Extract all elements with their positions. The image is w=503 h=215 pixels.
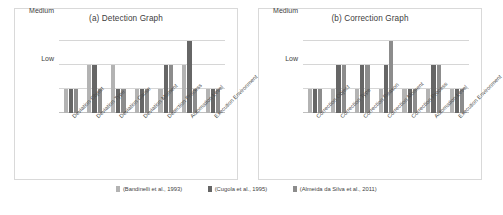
y-tick-label: Low — [41, 54, 54, 61]
x-label-cell: Automation Level — [178, 113, 202, 177]
chart-panel-detection: (a) Detection Graph LowMediumHigh Deviat… — [14, 8, 238, 180]
bar — [64, 89, 68, 113]
legend-swatch-icon — [293, 186, 297, 192]
chart-panel-correction: (b) Correction Graph LowMediumHigh Corre… — [258, 8, 482, 180]
legend-item[interactable]: (Almeida da Silva et al., 2011) — [293, 186, 376, 192]
x-label-cell: Execution Environment — [445, 113, 469, 177]
x-label-cell: Correction Process — [398, 113, 422, 177]
legend-label: (Cugola et al., 1995) — [215, 186, 268, 192]
bar — [313, 89, 317, 113]
x-axis-labels-detection: Deviation ObjectDeviation TypeDeviation … — [59, 113, 225, 177]
x-label-cell: Correction Reason — [350, 113, 374, 177]
bar — [389, 41, 393, 113]
legend-item[interactable]: (Cugola et al., 1995) — [208, 186, 267, 192]
x-label-cell: Automation Level — [422, 113, 446, 177]
y-tick-label: Low — [285, 54, 298, 61]
x-label-cell: Deviation Moment — [130, 113, 154, 177]
x-label-cell: Correction Type — [327, 113, 351, 177]
bar — [308, 89, 312, 113]
x-label-cell: Detection Process — [154, 113, 178, 177]
x-label-cell: Execution Environment — [201, 113, 225, 177]
x-label-cell: Correction Moment — [374, 113, 398, 177]
legend-label: (Almeida da Silva et al., 2011) — [300, 186, 377, 192]
bar — [69, 89, 73, 113]
x-label-cell: Deviation Cause — [106, 113, 130, 177]
bar-group — [59, 31, 83, 113]
y-tick-label: Medium — [29, 6, 54, 13]
y-tick-label: Medium — [273, 6, 298, 13]
chart-title-correction: (b) Correction Graph — [259, 14, 481, 23]
legend-swatch-icon — [116, 186, 120, 192]
x-label-cell: Deviation Type — [83, 113, 107, 177]
bar — [187, 41, 191, 113]
legend-label: (Bandinelli et al., 1993) — [123, 186, 182, 192]
x-label-cell: Correction Object — [303, 113, 327, 177]
x-label-cell: Deviation Object — [59, 113, 83, 177]
x-axis-labels-correction: Correction ObjectCorrection TypeCorrecti… — [303, 113, 469, 177]
chart-legend: (Bandinelli et al., 1993)(Cugola et al.,… — [0, 186, 493, 192]
legend-swatch-icon — [208, 186, 212, 192]
bar-group — [303, 31, 327, 113]
chart-title-detection: (a) Detection Graph — [15, 14, 237, 23]
legend-item[interactable]: (Bandinelli et al., 1993) — [116, 186, 182, 192]
